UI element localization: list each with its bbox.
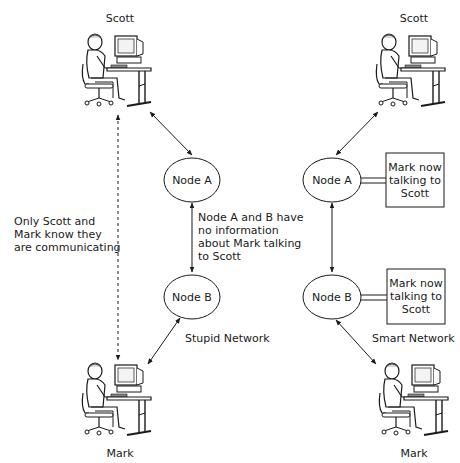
right-mark-workstation-icon — [379, 363, 448, 435]
left-scott-workstation-icon — [82, 34, 151, 106]
left-bottom-user-label: Mark — [90, 447, 150, 460]
right-scott-to-node-a-link — [336, 112, 378, 155]
right-node-b-state-connector — [361, 295, 387, 300]
left-middle-note: Node A and B have no information about M… — [198, 211, 303, 263]
right-top-user-label: Scott — [384, 12, 444, 25]
right-bottom-user-label: Mark — [384, 447, 444, 460]
right-scott-workstation-icon — [376, 34, 445, 106]
right-node-a-state-connector — [361, 178, 386, 183]
right-node-b-label: Node B — [303, 291, 361, 304]
right-state-box-a-text: Mark now talking to Scott — [386, 161, 444, 200]
left-node-b-to-mark-link — [148, 318, 180, 364]
right-node-b-to-mark-link — [336, 320, 376, 364]
right-node-a-label: Node A — [303, 174, 361, 187]
right-state-box-b-text: Mark now talking to Scott — [387, 277, 445, 316]
left-node-a-label: Node A — [164, 174, 220, 187]
left-side-note: Only Scott and Mark know they are commun… — [14, 215, 121, 254]
left-mark-workstation-icon — [82, 363, 151, 435]
left-scott-to-node-a-link — [150, 112, 192, 155]
left-network-label: Stupid Network — [185, 332, 270, 345]
left-top-user-label: Scott — [90, 12, 150, 25]
left-node-b-label: Node B — [164, 291, 220, 304]
right-network-label: Smart Network — [372, 332, 455, 345]
